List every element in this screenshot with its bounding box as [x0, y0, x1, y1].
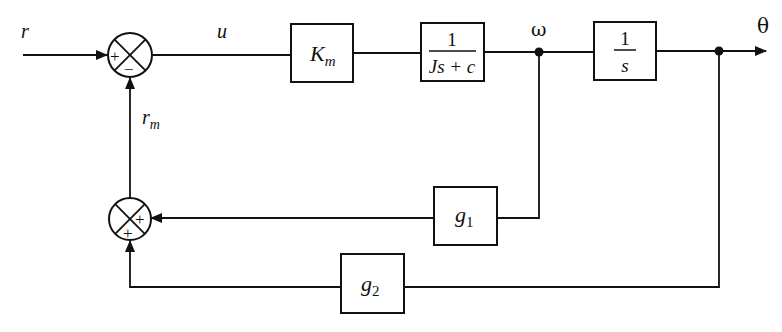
integrator-block: 1 s — [594, 22, 656, 80]
svg-text:1: 1 — [447, 29, 457, 50]
g2-output-wire — [130, 241, 341, 287]
feedback-summing-junction: + + — [109, 198, 151, 243]
svg-text:1: 1 — [620, 28, 630, 49]
minus-sign: − — [124, 60, 134, 79]
feedback-block-g1: g1 — [434, 187, 497, 245]
gain-block-km: Km — [291, 24, 353, 82]
omega-feedback-wire — [497, 52, 539, 218]
svg-text:Js + c: Js + c — [429, 56, 476, 77]
input-signal: r — [21, 20, 107, 55]
plant-block: 1 Js + c — [421, 23, 484, 81]
plus-sign-right: + — [135, 210, 145, 229]
plus-sign: + — [110, 47, 120, 66]
main-summing-junction: + − — [108, 33, 152, 79]
svg-text:s: s — [621, 55, 628, 76]
theta-feedback-wire — [404, 51, 719, 287]
control-label-u: u — [217, 20, 227, 42]
omega-label: ω — [531, 18, 547, 40]
input-label-r: r — [21, 20, 29, 42]
block-diagram: r + − u Km 1 Js + c ω 1 s θ g1 — [0, 0, 782, 332]
theta-label: θ — [757, 14, 769, 38]
rm-label: rm — [142, 106, 160, 132]
plus-sign-bottom: + — [123, 224, 133, 243]
feedback-block-g2: g2 — [341, 254, 404, 313]
